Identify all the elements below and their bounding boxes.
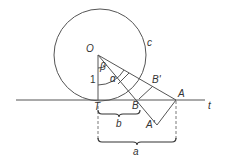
label-B: B (132, 100, 139, 111)
inner-perpendicular (118, 73, 129, 84)
circle-c (54, 9, 146, 101)
label-line-t: t (208, 100, 212, 111)
segment-B-prime-B (139, 86, 153, 99)
brace-a (98, 138, 176, 145)
label-beta: β (99, 61, 106, 72)
label-radius-1: 1 (90, 74, 96, 85)
label-O: O (86, 43, 94, 54)
label-B-prime: B' (152, 74, 162, 85)
segment-AA-prime (157, 100, 176, 125)
label-T: T (94, 101, 101, 112)
label-A-prime: A' (145, 119, 156, 130)
label-circle-c: c (147, 37, 152, 48)
label-b: b (116, 118, 122, 129)
label-a: a (133, 146, 139, 157)
geometry-diagram: O T B A B' A' c t β α 1 b a (0, 0, 226, 160)
label-alpha: α (110, 73, 116, 84)
brace-b (98, 110, 140, 117)
label-A: A (177, 88, 185, 99)
